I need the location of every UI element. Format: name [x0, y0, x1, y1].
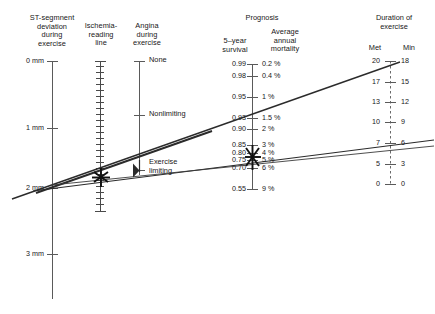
- reading-line-shallow: [52, 146, 434, 185]
- reading-lines-group: [0, 0, 435, 314]
- reading-line-lower: [33, 140, 434, 191]
- nomogram-figure: ST-segmnent deviation during exercise 0 …: [0, 0, 435, 314]
- prognosis-marker: [245, 145, 261, 170]
- arrowhead-angina: [133, 164, 140, 178]
- reading-line-upper: [12, 62, 400, 199]
- ischemia-marker: [92, 168, 110, 187]
